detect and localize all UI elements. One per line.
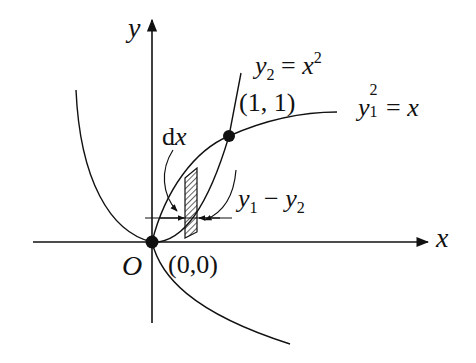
eq-y1-sup: 2 (370, 82, 378, 98)
point-one-one (223, 130, 235, 142)
dx-label: dx (162, 124, 187, 150)
eq-y1-var: y (358, 93, 370, 122)
equation-y2: y2 = x2 (255, 50, 322, 83)
point-one-one-label: (1, 1) (239, 90, 295, 116)
diagram-canvas: y x O (0,0) y2 = x2 y21 = x (1, 1) dx y1… (0, 0, 476, 363)
shaded-strip (185, 168, 197, 238)
curve-y2-parabola (76, 73, 241, 242)
dx-label-x: x (175, 122, 187, 151)
origin-label: O (122, 252, 142, 280)
height-label-a: y (238, 184, 250, 213)
x-axis-label: x (436, 224, 448, 252)
equation-y1: y21 = x (358, 90, 419, 121)
eq-y1-rhs: x (407, 93, 419, 122)
height-label-b-sub: 2 (297, 199, 305, 216)
eq-y2-sup: 2 (314, 49, 322, 66)
height-label-b: y (285, 184, 297, 213)
eq-y1-sub: 1 (370, 104, 378, 120)
eq-y2-var: y (255, 51, 267, 80)
height-label: y1 − y2 (238, 186, 305, 216)
dx-label-d: d (162, 122, 175, 151)
plot-graphics (0, 0, 476, 363)
y-axis-label: y (128, 14, 140, 42)
point-origin (146, 236, 159, 249)
origin-coord-label: (0,0) (168, 252, 218, 278)
eq-y2-rhs: x (302, 51, 314, 80)
height-leader-line (205, 170, 236, 220)
height-label-minus: − (264, 184, 279, 213)
eq-y2-sub: 2 (267, 66, 275, 83)
height-label-a-sub: 1 (250, 199, 258, 216)
